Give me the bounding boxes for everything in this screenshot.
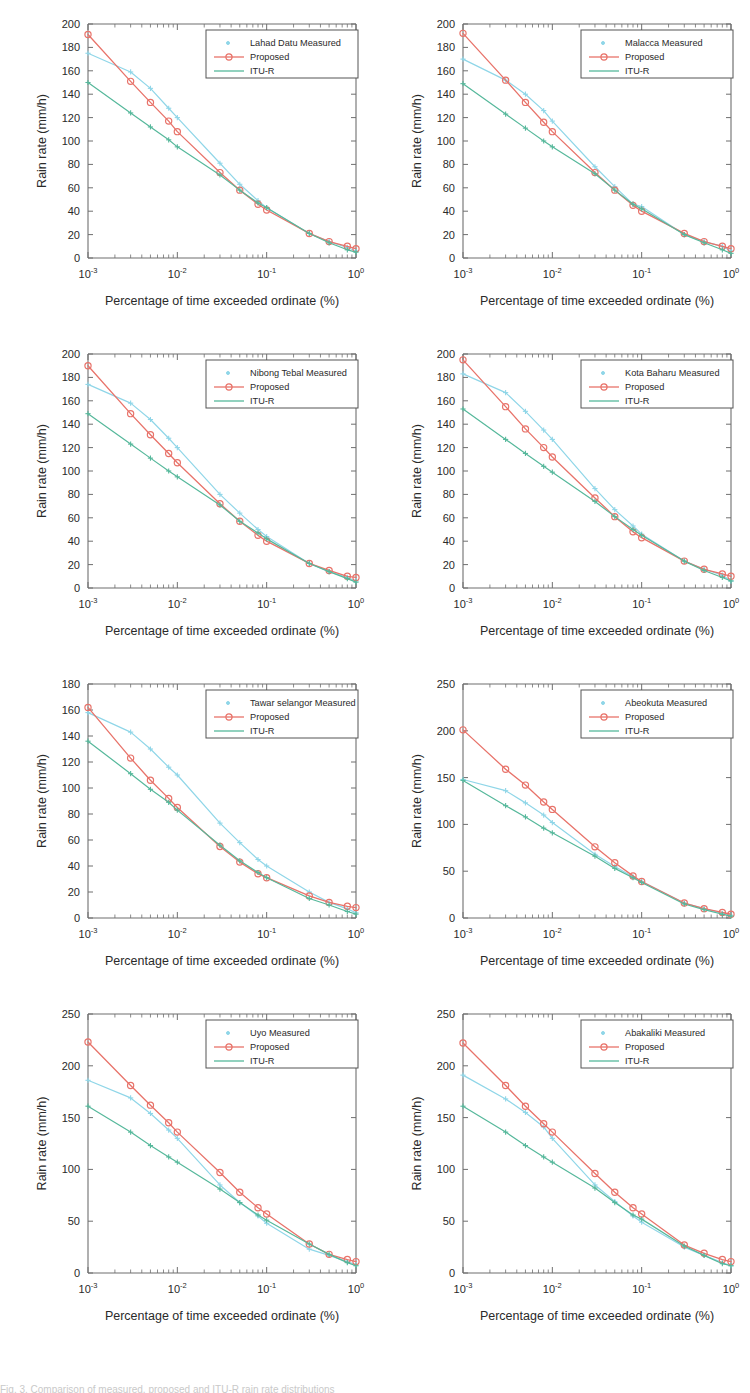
y-tick-label: 140 (62, 418, 80, 430)
y-tick-label: 120 (437, 442, 455, 454)
y-tick-label: 100 (437, 465, 455, 477)
y-tick-label: 200 (437, 18, 455, 30)
y-tick-label: 100 (62, 1163, 80, 1175)
y-axis-title: Rain rate (mm/h) (410, 1097, 424, 1191)
series-line-1 (88, 1042, 356, 1262)
x-tick-label: 100 (348, 266, 364, 280)
series-line-0 (463, 1075, 731, 1266)
panel-grid: 02040608010012014016018020010-310-210-11… (0, 0, 750, 1350)
plot-tawar-selangor: 02040608010012014016018010-310-210-1100T… (0, 660, 375, 990)
y-tick-label: 250 (437, 1008, 455, 1020)
y-tick-label: 20 (443, 229, 455, 241)
plot-wrap: 02040608010012014016018020010-310-210-11… (375, 0, 750, 330)
y-tick-label: 40 (68, 535, 80, 547)
x-tick-label: 10-1 (257, 1281, 276, 1295)
plot-wrap: 02040608010012014016018020010-310-210-11… (0, 330, 375, 660)
x-tick-label: 10-3 (79, 266, 98, 280)
y-tick-label: 120 (62, 442, 80, 454)
x-tick-exponent: -3 (466, 1281, 473, 1290)
legend-marker-measured (227, 42, 230, 45)
y-tick-label: 180 (437, 41, 455, 53)
legend-label: Proposed (625, 52, 664, 62)
x-tick-exponent: 0 (735, 266, 739, 275)
y-tick-label: 200 (62, 18, 80, 30)
plot-wrap: 02040608010012014016018010-310-210-1100T… (0, 660, 375, 990)
x-tick-exponent: -1 (644, 926, 651, 935)
y-tick-label: 80 (443, 488, 455, 500)
y-tick-label: 50 (443, 865, 455, 877)
y-tick-label: 100 (62, 135, 80, 147)
legend-label: Proposed (250, 712, 289, 722)
x-axis-title: Percentage of time exceeded ordinate (%) (105, 954, 339, 968)
legend-marker-measured (227, 1032, 230, 1035)
x-axis-title: Percentage of time exceeded ordinate (%) (105, 1309, 339, 1323)
panel-row2-right: 02040608010012014016018020010-310-210-11… (375, 330, 750, 660)
x-tick-label: 100 (723, 266, 739, 280)
x-tick-label: 10-3 (454, 1281, 473, 1295)
y-tick-label: 160 (62, 65, 80, 77)
x-tick-exponent: -2 (555, 926, 562, 935)
x-tick-label: 10-3 (79, 596, 98, 610)
plot-abeokuta: 05010015020025010-310-210-1100Abeokuta M… (375, 660, 750, 990)
x-tick-exponent: -1 (269, 926, 276, 935)
x-tick-label: 10-3 (454, 926, 473, 940)
x-tick-label: 100 (723, 926, 739, 940)
plot-lahad-datu: 02040608010012014016018020010-310-210-11… (0, 0, 375, 330)
y-tick-label: 160 (437, 395, 455, 407)
x-tick-exponent: 0 (360, 1281, 364, 1290)
y-axis-title: Rain rate (mm/h) (410, 754, 424, 848)
y-tick-label: 60 (68, 182, 80, 194)
y-axis-title: Rain rate (mm/h) (35, 424, 49, 518)
y-tick-label: 0 (74, 252, 80, 264)
y-tick-label: 180 (62, 678, 80, 690)
plot-abakaliki: 05010015020025010-310-210-1100Abakaliki … (375, 990, 750, 1345)
panel-row2-left: 02040608010012014016018020010-310-210-11… (0, 330, 375, 660)
legend-marker-measured (602, 702, 605, 705)
y-tick-label: 140 (62, 730, 80, 742)
series-line-1 (463, 730, 731, 914)
x-tick-label: 10-3 (79, 926, 98, 940)
y-tick-label: 160 (62, 704, 80, 716)
x-tick-exponent: 0 (735, 1281, 739, 1290)
x-axis-title: Percentage of time exceeded ordinate (%) (105, 624, 339, 638)
legend-label: Proposed (250, 382, 289, 392)
series-line-0 (88, 713, 356, 913)
legend-label: ITU-R (625, 396, 650, 406)
panel-row1-left: 02040608010012014016018020010-310-210-11… (0, 0, 375, 330)
x-tick-label: 10-1 (632, 926, 651, 940)
x-tick-label: 100 (348, 926, 364, 940)
y-tick-label: 80 (68, 158, 80, 170)
plot-nibong-tebal: 02040608010012014016018020010-310-210-11… (0, 330, 375, 660)
y-tick-label: 180 (62, 41, 80, 53)
x-tick-label: 100 (723, 1281, 739, 1295)
x-tick-label: 10-2 (168, 266, 187, 280)
y-tick-label: 250 (437, 678, 455, 690)
y-tick-label: 80 (68, 808, 80, 820)
y-tick-label: 20 (443, 559, 455, 571)
y-tick-label: 20 (68, 229, 80, 241)
plot-wrap: 05010015020025010-310-210-1100Abeokuta M… (375, 660, 750, 990)
y-tick-label: 200 (437, 1060, 455, 1072)
panel-row4-right: 05010015020025010-310-210-1100Abakaliki … (375, 990, 750, 1350)
y-tick-label: 60 (68, 834, 80, 846)
legend-marker-measured (227, 372, 230, 375)
x-tick-exponent: -2 (555, 266, 562, 275)
x-tick-exponent: -2 (180, 266, 187, 275)
x-tick-label: 100 (348, 1281, 364, 1295)
x-tick-label: 10-1 (632, 596, 651, 610)
x-tick-exponent: -1 (269, 266, 276, 275)
x-tick-label: 10-1 (632, 1281, 651, 1295)
legend-label: Proposed (625, 1042, 664, 1052)
legend-label: Proposed (250, 52, 289, 62)
x-tick-exponent: -1 (644, 266, 651, 275)
legend-label: Nibong Tebal Measured (250, 368, 347, 378)
x-tick-label: 100 (723, 596, 739, 610)
series-line-2 (88, 83, 356, 253)
legend-label: Proposed (250, 1042, 289, 1052)
series-line-0 (88, 1080, 356, 1264)
x-tick-label: 10-2 (543, 1281, 562, 1295)
y-tick-label: 100 (62, 782, 80, 794)
y-tick-label: 20 (68, 559, 80, 571)
x-axis-title: Percentage of time exceeded ordinate (%) (480, 1309, 714, 1323)
x-tick-exponent: -1 (269, 596, 276, 605)
